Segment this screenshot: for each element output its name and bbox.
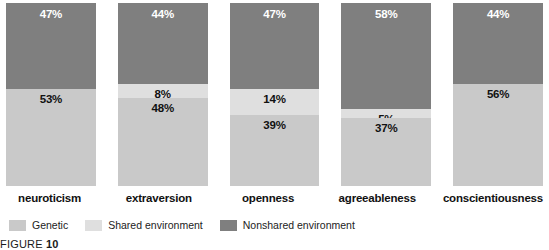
bar-segment: 47% <box>6 3 96 89</box>
bar-segment: 5% <box>341 109 431 118</box>
bar-column: 44%8%48% <box>118 3 208 186</box>
bar-segment-value-label: 37% <box>341 123 431 135</box>
legend-item: Nonshared environment <box>220 219 355 231</box>
category-labels-row: neuroticismextraversionopennessagreeable… <box>6 192 543 204</box>
bar-segment-value-label: 14% <box>230 94 320 106</box>
bar-segment: 48% <box>118 98 208 186</box>
legend-swatch-icon <box>9 220 26 231</box>
legend-label: Nonshared environment <box>243 219 355 231</box>
legend-label: Genetic <box>32 219 68 231</box>
bar-segment-value-label: 48% <box>118 103 208 115</box>
bar-column: 47%14%39% <box>230 3 320 186</box>
bar-segment-value-label: 39% <box>230 120 320 132</box>
bar-segment-value-label: 53% <box>6 94 96 106</box>
bar-segment-value-label: 44% <box>118 9 208 21</box>
bar-segment-value-label: 44% <box>453 9 543 21</box>
bar-column: 58%5%37% <box>341 3 431 186</box>
bar-segment: 14% <box>230 89 320 115</box>
bar-segment: 44% <box>118 3 208 84</box>
bar-segment: 47% <box>230 3 320 89</box>
bars-row: 47%53%44%8%48%47%14%39%58%5%37%44%56% <box>6 3 543 186</box>
bar-segment: 39% <box>230 115 320 186</box>
bar-segment: 37% <box>341 118 431 186</box>
bar-segment-value-label: 58% <box>341 9 431 21</box>
category-label-openness: openness <box>224 192 311 204</box>
legend-swatch-icon <box>220 220 237 231</box>
figure-caption-number: 10 <box>46 238 59 250</box>
bar-column: 44%56% <box>453 3 543 186</box>
bar-segment: 56% <box>453 84 543 186</box>
legend-item: Genetic <box>9 219 68 231</box>
chart-legend: GeneticShared environmentNonshared envir… <box>9 219 372 231</box>
bar-segment: 58% <box>341 3 431 109</box>
bar-segment-value-label: 56% <box>453 89 543 101</box>
figure-caption: FIGURE 10 <box>0 238 59 250</box>
category-label-conscientiousness: conscientiousness <box>443 192 543 204</box>
legend-label: Shared environment <box>108 219 203 231</box>
stacked-bar-chart: 47%53%44%8%48%47%14%39%58%5%37%44%56% ne… <box>0 0 549 190</box>
legend-swatch-icon <box>85 220 102 231</box>
figure-caption-prefix: FIGURE <box>0 238 43 250</box>
bar-segment: 44% <box>453 3 543 84</box>
bar-segment-value-label: 47% <box>6 9 96 21</box>
legend-item: Shared environment <box>85 219 203 231</box>
bar-segment: 8% <box>118 84 208 99</box>
bar-segment: 53% <box>6 89 96 186</box>
bar-segment-value-label: 47% <box>230 9 320 21</box>
bar-column: 47%53% <box>6 3 96 186</box>
category-label-extraversion: extraversion <box>115 192 202 204</box>
category-label-agreeableness: agreeableness <box>334 192 421 204</box>
category-label-neuroticism: neuroticism <box>6 192 93 204</box>
